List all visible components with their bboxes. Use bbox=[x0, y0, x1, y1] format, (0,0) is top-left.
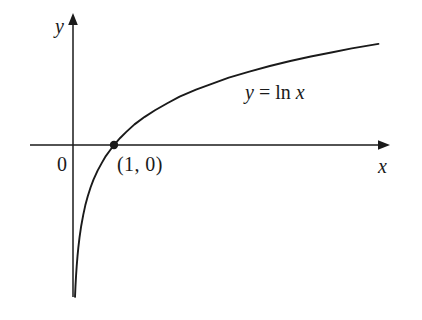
y-axis-label: y bbox=[55, 16, 64, 36]
y-axis-arrowhead-icon bbox=[68, 13, 78, 25]
y-axis bbox=[68, 13, 78, 297]
figure-container: y x 0 (1, 0) y=lnx bbox=[0, 0, 422, 320]
equation-argument: x bbox=[296, 81, 305, 103]
equation-label: y=lnx bbox=[245, 82, 305, 102]
x-axis-arrowhead-icon bbox=[378, 140, 390, 150]
point-marker-1-0 bbox=[110, 141, 118, 149]
origin-label: 0 bbox=[57, 154, 67, 174]
x-axis-label: x bbox=[378, 156, 387, 176]
point-coordinate-label: (1, 0) bbox=[117, 154, 163, 174]
equation-function-name: ln bbox=[275, 81, 291, 103]
x-axis bbox=[30, 140, 390, 150]
equation-equals-sign: = bbox=[259, 81, 270, 103]
equation-lhs: y bbox=[245, 81, 254, 103]
